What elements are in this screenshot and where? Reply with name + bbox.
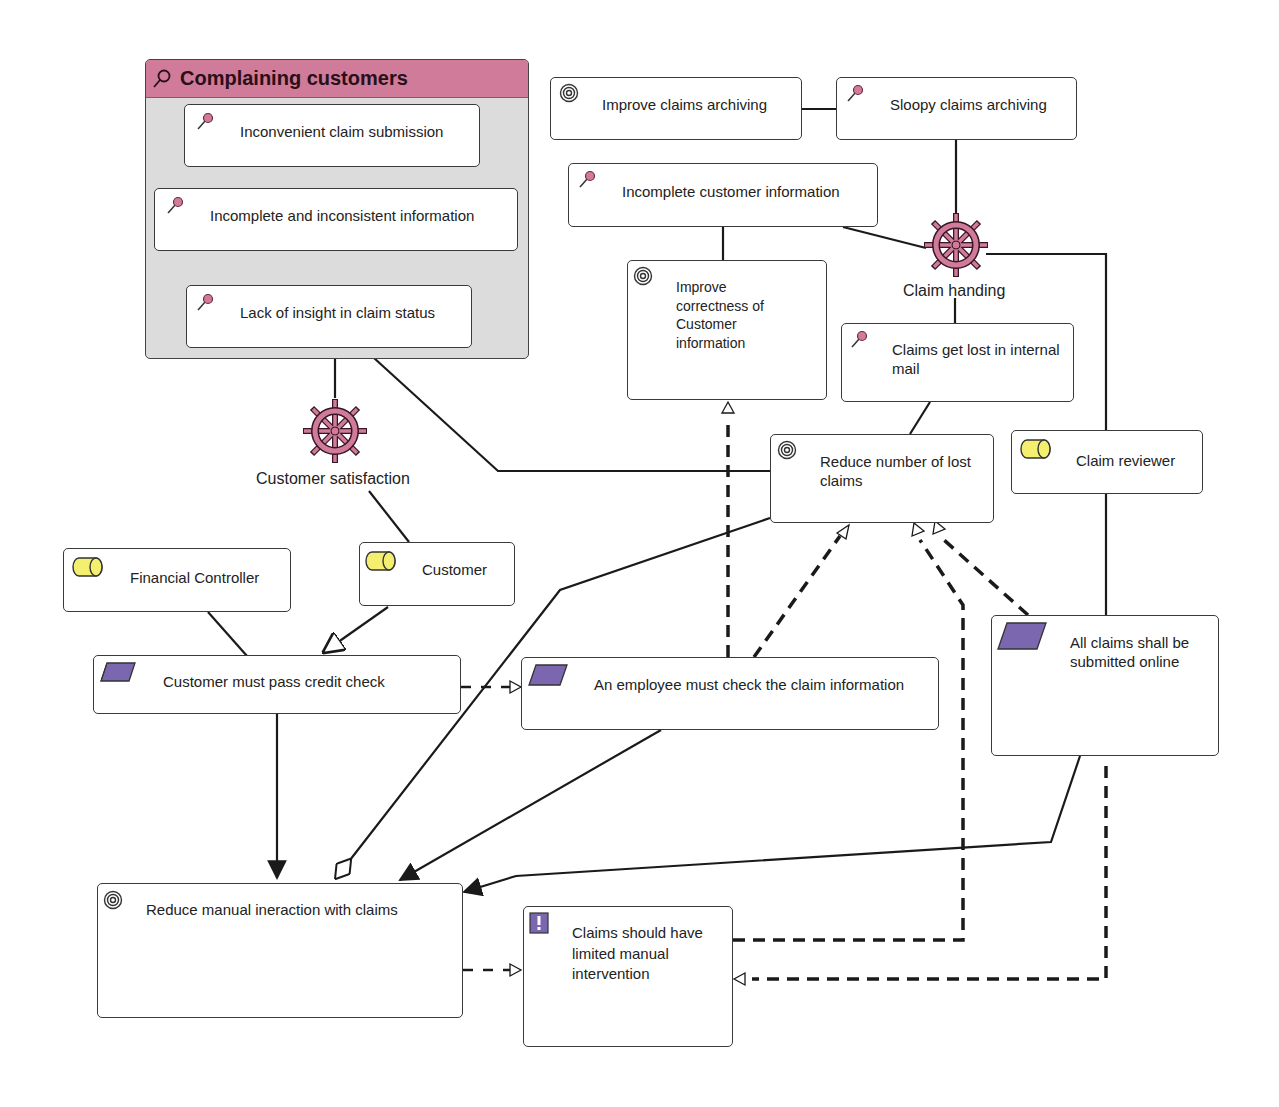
assessment-icon (165, 195, 187, 217)
node-label: Improve claims archiving (602, 95, 767, 114)
goal-icon (633, 266, 653, 286)
goal-improve-correctness-customer-info[interactable]: Improve correctness of Customer informat… (627, 260, 827, 400)
stakeholder-claim-reviewer[interactable]: Claim reviewer (1011, 430, 1203, 494)
requirement-submit-online[interactable]: All claims shall be submitted online (991, 615, 1219, 756)
node-label: All claims shall be submitted online (1070, 633, 1210, 671)
assessment-lack-of-insight[interactable]: Lack of insight in claim status (186, 285, 472, 348)
principle-limited-manual-intervention[interactable]: Claims should have limited manual interv… (523, 906, 733, 1047)
node-label: Claims get lost in internal mail (892, 340, 1077, 378)
assessment-inconvenient-claim-submission[interactable]: Inconvenient claim submission (184, 104, 480, 167)
assessment-icon (577, 169, 599, 191)
node-label: Incomplete customer information (622, 182, 840, 201)
assessment-icon (845, 83, 867, 105)
requirement-icon (997, 622, 1047, 650)
node-label: Lack of insight in claim status (240, 303, 435, 322)
driver-icon (922, 211, 990, 279)
assessment-icon (849, 329, 871, 351)
assessment-incomplete-inconsistent-information[interactable]: Incomplete and inconsistent information (154, 188, 518, 251)
assessment-icon (195, 292, 217, 314)
driver-icon (301, 397, 369, 465)
node-label: An employee must check the claim informa… (594, 675, 904, 694)
goal-icon (777, 440, 797, 460)
driver-label-claim-handling[interactable]: Claim handing (903, 282, 1005, 300)
requirement-icon (100, 662, 136, 682)
node-label: Inconvenient claim submission (240, 122, 443, 141)
assessment-icon (195, 111, 217, 133)
group-header: Complaining customers (146, 60, 528, 98)
node-label: Improve correctness of Customer informat… (676, 278, 796, 352)
node-label: Sloopy claims archiving (890, 95, 1047, 114)
node-label: Claim reviewer (1076, 451, 1175, 470)
goal-icon (103, 890, 123, 910)
node-label: Customer (422, 560, 487, 579)
node-label: Financial Controller (130, 568, 259, 587)
driver-label-customer-satisfaction[interactable]: Customer satisfaction (256, 470, 410, 488)
goal-reduce-lost-claims[interactable]: Reduce number of lost claims (770, 434, 994, 523)
assessment-sloopy-claims-archiving[interactable]: Sloopy claims archiving (836, 77, 1077, 140)
stakeholder-icon (72, 556, 104, 578)
requirement-icon (528, 664, 568, 686)
stakeholder-icon (1020, 438, 1052, 460)
requirement-credit-check[interactable]: Customer must pass credit check (93, 655, 461, 714)
node-label: Customer must pass credit check (163, 672, 385, 691)
goal-improve-claims-archiving[interactable]: Improve claims archiving (550, 77, 802, 140)
principle-icon (529, 912, 549, 934)
goal-icon (559, 83, 579, 103)
group-title: Complaining customers (180, 67, 408, 90)
stakeholder-financial-controller[interactable]: Financial Controller (63, 548, 291, 612)
stakeholder-customer[interactable]: Customer (359, 542, 515, 606)
requirement-employee-check[interactable]: An employee must check the claim informa… (521, 657, 939, 730)
node-label: Claims should have limited manual interv… (572, 923, 727, 985)
assessment-incomplete-customer-information[interactable]: Incomplete customer information (568, 163, 878, 227)
node-label: Incomplete and inconsistent information (210, 206, 474, 225)
assessment-icon (152, 69, 172, 89)
stakeholder-icon (365, 550, 397, 572)
goal-reduce-manual-interaction[interactable]: Reduce manual ineraction with claims (97, 883, 463, 1018)
node-label: Reduce manual ineraction with claims (146, 900, 398, 919)
diagram-canvas: Complaining customers Inconvenient claim… (0, 0, 1279, 1107)
assessment-claims-lost-internal-mail[interactable]: Claims get lost in internal mail (841, 323, 1074, 402)
node-label: Reduce number of lost claims (820, 452, 990, 490)
